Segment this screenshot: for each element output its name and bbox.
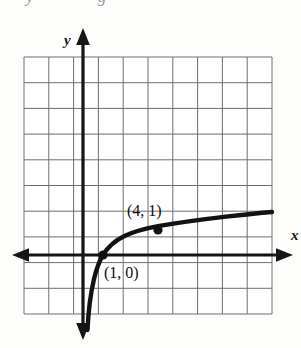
arrow-up-icon — [76, 28, 90, 45]
point-4-1-marker — [153, 225, 162, 234]
graph-canvas: y x (4, 1) (1, 0) — [0, 0, 301, 348]
arrow-left-icon — [12, 248, 29, 262]
annotation-point-4-1: (4, 1) — [127, 202, 162, 220]
point-1-0-marker — [98, 250, 107, 259]
y-axis-label: y — [62, 32, 71, 48]
logarithmic-graph-figure: y g — [0, 0, 301, 348]
arrow-right-icon — [276, 248, 293, 262]
annotation-point-1-0: (1, 0) — [104, 264, 139, 282]
x-axis-label: x — [290, 227, 299, 243]
